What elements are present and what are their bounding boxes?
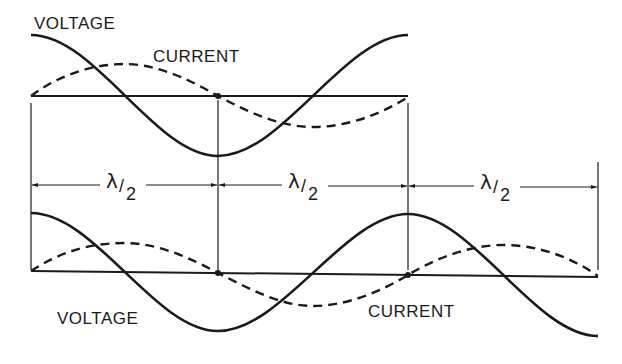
half-wavelength-labels: λ / 2 λ / 2 λ / 2: [106, 169, 510, 205]
top-panel: VOLTAGE CURRENT: [31, 14, 408, 156]
svg-text:/: /: [493, 177, 498, 197]
svg-text:/: /: [301, 176, 306, 196]
svg-text:2: 2: [126, 184, 136, 204]
top-node-dot: [215, 93, 221, 99]
svg-text:λ: λ: [480, 170, 492, 194]
top-voltage-label: VOLTAGE: [34, 14, 115, 33]
svg-text:λ: λ: [106, 169, 118, 193]
svg-text:λ: λ: [288, 169, 300, 193]
bottom-voltage-label: VOLTAGE: [57, 309, 138, 328]
svg-text:/: /: [119, 176, 124, 196]
half-wave-label-3: λ / 2: [480, 170, 510, 205]
standing-wave-diagram: VOLTAGE CURRENT λ / 2 λ / 2 λ / 2: [0, 0, 622, 364]
bottom-node-dot-2: [405, 272, 411, 278]
half-wave-label-1: λ / 2: [106, 169, 136, 204]
svg-text:2: 2: [308, 184, 318, 204]
bottom-panel: VOLTAGE CURRENT: [31, 213, 598, 336]
top-current-label: CURRENT: [153, 47, 240, 66]
half-wave-label-2: λ / 2: [288, 169, 318, 204]
bottom-current-label: CURRENT: [368, 302, 455, 321]
svg-text:2: 2: [500, 185, 510, 205]
bottom-node-dot-1: [215, 270, 221, 276]
